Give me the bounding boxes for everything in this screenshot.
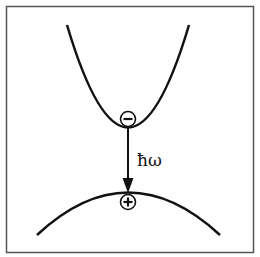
electron-minus-icon <box>121 112 136 127</box>
frame-border <box>7 7 254 253</box>
hole-plus-icon <box>121 195 136 210</box>
transition-arrow-icon <box>123 127 134 193</box>
photon-energy-label: ħω <box>137 150 162 170</box>
band-diagram: ħω <box>0 0 260 257</box>
